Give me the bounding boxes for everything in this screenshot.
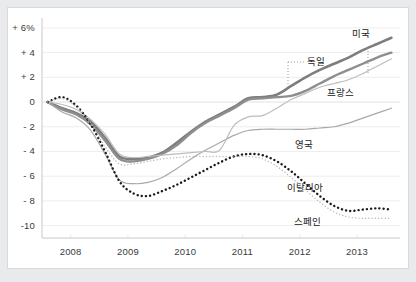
- y-tick-label--4: - 4: [5, 145, 35, 156]
- y-tick-label-6: + 6%: [5, 22, 35, 33]
- x-tick-label-2012: 2012: [280, 246, 320, 257]
- series-label-영국: 영국: [295, 137, 313, 151]
- line-chart-plot: [0, 0, 416, 282]
- x-tick-label-2009: 2009: [108, 246, 148, 257]
- series-label-이탈리아: 이탈리아: [287, 180, 323, 194]
- y-tick-label-2: + 2: [5, 71, 35, 82]
- x-tick-label-2008: 2008: [51, 246, 91, 257]
- chart-page: + 6%+ 4+ 20- 2- 4- 6- 8-10 2008200920102…: [0, 0, 416, 282]
- y-tick-label--6: - 6: [5, 170, 35, 181]
- y-tick-label-4: + 4: [5, 47, 35, 58]
- series-label-독일: 독일: [307, 54, 325, 68]
- series-label-프랑스: 프랑스: [327, 85, 354, 99]
- series-label-스페인: 스페인: [294, 214, 321, 228]
- x-tick-label-2011: 2011: [222, 246, 262, 257]
- y-tick-label--2: - 2: [5, 121, 35, 132]
- y-tick-label-0: 0: [5, 96, 35, 107]
- series-label-미국: 미국: [352, 26, 370, 40]
- series-line-독일: [48, 53, 392, 162]
- x-tick-label-2010: 2010: [165, 246, 205, 257]
- y-tick-label--8: - 8: [5, 195, 35, 206]
- y-tick-label--10: -10: [5, 220, 35, 231]
- x-tick-label-2013: 2013: [337, 246, 377, 257]
